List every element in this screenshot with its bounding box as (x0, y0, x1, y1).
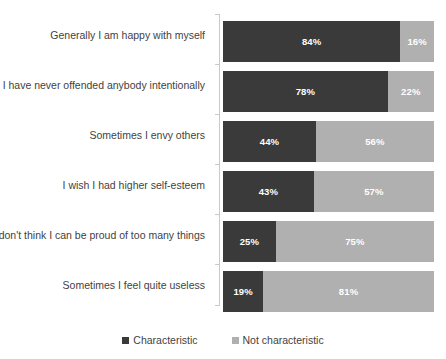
category-label: Sometimes I envy others (0, 114, 212, 155)
bar-row: 84% 16% (223, 21, 434, 62)
stacked-bar-chart: Generally I am happy with myself I have … (0, 0, 446, 359)
bar-value-label: 81% (339, 286, 358, 297)
bar-value-label: 78% (296, 86, 315, 97)
bar-segment-not-characteristic: 75% (276, 221, 434, 262)
bar-segment-characteristic: 25% (223, 221, 276, 262)
legend-swatch-icon (122, 337, 129, 344)
plot-area: 84% 16% 78% 22% 44% 56% (219, 14, 434, 306)
category-axis-line (219, 14, 220, 306)
bar-row: 44% 56% (223, 121, 434, 162)
bar-row: 43% 57% (223, 171, 434, 212)
bar-segment-not-characteristic: 57% (314, 171, 434, 212)
bar-value-label: 16% (407, 36, 426, 47)
axis-tick (215, 164, 219, 165)
legend-label: Not characteristic (243, 334, 324, 346)
bar-segment-characteristic: 44% (223, 121, 316, 162)
axis-tick (215, 305, 219, 306)
bar-value-label: 43% (259, 186, 278, 197)
legend-item-characteristic[interactable]: Characteristic (122, 334, 197, 346)
bar-segment-characteristic: 78% (223, 71, 388, 112)
bar-segment-characteristic: 43% (223, 171, 314, 212)
bar-value-label: 44% (260, 136, 279, 147)
axis-tick (215, 14, 219, 15)
category-label: I wish I had higher self-esteem (0, 164, 212, 205)
category-label: Sometimes I feel quite useless (0, 264, 212, 305)
axis-tick (215, 114, 219, 115)
category-label: Generally I am happy with myself (0, 14, 212, 55)
bar-segment-characteristic: 19% (223, 271, 263, 312)
category-axis-labels: Generally I am happy with myself I have … (0, 14, 212, 306)
bar-segment-not-characteristic: 16% (400, 21, 434, 62)
legend-swatch-icon (232, 337, 239, 344)
category-label: I have never offended anybody intentiona… (0, 64, 212, 105)
bar-segment-not-characteristic: 56% (316, 121, 434, 162)
bar-row: 78% 22% (223, 71, 434, 112)
bar-segment-not-characteristic: 22% (388, 71, 434, 112)
bar-value-label: 25% (240, 236, 259, 247)
bar-value-label: 75% (345, 236, 364, 247)
legend-item-not-characteristic[interactable]: Not characteristic (232, 334, 324, 346)
bar-segment-not-characteristic: 81% (263, 271, 434, 312)
bar-value-label: 56% (365, 136, 384, 147)
bar-segment-characteristic: 84% (223, 21, 400, 62)
bar-row: 25% 75% (223, 221, 434, 262)
legend-label: Characteristic (133, 334, 197, 346)
chart-legend: Characteristic Not characteristic (0, 330, 446, 350)
bar-value-label: 22% (401, 86, 420, 97)
bar-value-label: 84% (302, 36, 321, 47)
axis-tick (215, 64, 219, 65)
bar-value-label: 57% (364, 186, 383, 197)
axis-tick (215, 264, 219, 265)
bar-row: 19% 81% (223, 271, 434, 312)
category-label: I don't think I can be proud of too many… (0, 214, 212, 255)
bar-value-label: 19% (233, 286, 252, 297)
axis-tick (215, 214, 219, 215)
